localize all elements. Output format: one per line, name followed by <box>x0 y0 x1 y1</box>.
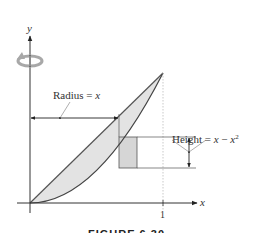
figure-caption: FIGURE 6.30 <box>88 228 165 233</box>
height-label: Height = x − x2 <box>172 133 239 145</box>
x-axis-label: x <box>199 196 205 208</box>
y-axis-label: y <box>26 22 32 34</box>
radius-leader-line <box>60 102 70 118</box>
solid-of-revolution-diagram: y x 1 Radius = x Height = x − x2 FIGURE … <box>0 0 259 233</box>
x-tick-label-1: 1 <box>160 209 165 220</box>
radius-label: Radius = x <box>53 89 100 101</box>
